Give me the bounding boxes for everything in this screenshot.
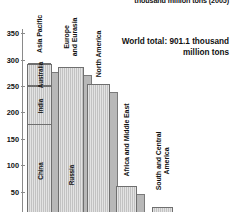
bar-segment: Russia: [59, 133, 83, 212]
bar[interactable]: [116, 186, 137, 212]
y-axis-line: [22, 29, 23, 212]
bar-segment: China: [28, 125, 51, 212]
bar-segment-label: Australia: [36, 62, 43, 88]
bar[interactable]: [152, 207, 173, 212]
bar-segment-label: Russia: [68, 165, 75, 185]
bar[interactable]: Russia: [58, 67, 84, 212]
y-tick-label-350: 350: [7, 29, 19, 38]
bar-group[interactable]: Africa and Middle East: [116, 186, 137, 212]
bar-group[interactable]: ChinaIndiaAustraliaAsia Pacific: [27, 64, 52, 212]
bar-segment-label: India: [36, 98, 43, 112]
y-tick-label-50: 50: [11, 187, 19, 196]
y-tick-300: [21, 60, 25, 61]
bar-category-label: South and Central America: [155, 118, 171, 204]
bar-category-label: Africa and Middle East: [123, 97, 131, 183]
y-tick-label-250: 250: [7, 82, 19, 91]
bar-shadow: [137, 194, 145, 212]
bar-segment: Australia: [28, 63, 51, 86]
bar-category-label: Europe and Eurasia: [63, 9, 79, 65]
chart-title: thousand million tons (2005): [79, 0, 229, 5]
bar-segment-label: China: [36, 162, 43, 179]
plot-area: 35030025020015010050 ChinaIndiaAustralia…: [22, 20, 226, 210]
bar-category-label: North America: [95, 26, 103, 82]
y-tick-350: [21, 33, 25, 34]
bar-segment: India: [28, 86, 51, 125]
bar-group[interactable]: North America: [87, 84, 110, 212]
bar[interactable]: [87, 84, 110, 212]
y-tick-label-300: 300: [7, 55, 19, 64]
y-tick-200: [21, 112, 25, 113]
y-tick-100: [21, 165, 25, 166]
bar[interactable]: ChinaIndiaAustralia: [27, 64, 52, 212]
bar-group[interactable]: RussiaEurope and Eurasia: [58, 67, 84, 212]
y-tick-label-100: 100: [7, 161, 19, 170]
y-tick-label-150: 150: [7, 134, 19, 143]
bar-category-label: Asia Pacific: [36, 6, 44, 62]
y-tick-150: [21, 139, 25, 140]
y-tick-50: [21, 192, 25, 193]
chart-root: thousand million tons (2005) World total…: [0, 0, 232, 212]
y-tick-250: [21, 86, 25, 87]
y-tick-label-200: 200: [7, 108, 19, 117]
bar-group[interactable]: South and Central America: [152, 207, 173, 212]
